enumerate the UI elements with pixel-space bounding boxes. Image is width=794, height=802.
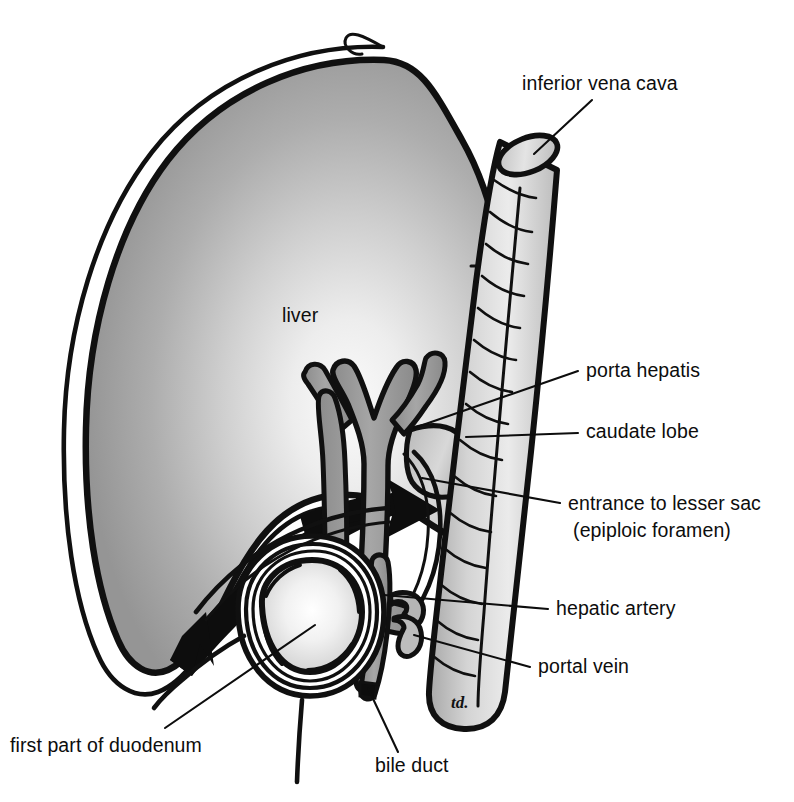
label-first-part-of-duodenum: first part of duodenum — [10, 734, 202, 756]
label-inferior-vena-cava: inferior vena cava — [522, 72, 678, 94]
leader-inferior-vena-cava — [534, 100, 592, 154]
label-caudate-lobe: caudate lobe — [586, 420, 699, 442]
liver-anatomy-illustration: td. — [0, 0, 794, 802]
artist-signature: td. — [451, 693, 468, 712]
label-epiploic-foramen: (epiploic foramen) — [573, 519, 731, 541]
label-porta-hepatis: porta hepatis — [586, 359, 700, 381]
duodenum-descending-wall — [297, 700, 302, 782]
label-portal-vein: portal vein — [538, 655, 629, 677]
falciform-ligament-curl — [345, 34, 383, 54]
label-bile-duct: bile duct — [375, 754, 449, 776]
leader-bile-duct — [368, 688, 398, 752]
label-liver: liver — [282, 304, 319, 326]
anatomical-figure: td. — [0, 0, 794, 802]
label-entrance-to-lesser-sac: entrance to lesser sac — [568, 492, 761, 514]
label-hepatic-artery: hepatic artery — [556, 597, 676, 619]
